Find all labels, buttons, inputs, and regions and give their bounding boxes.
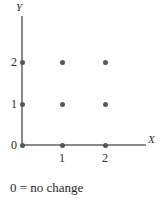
data-point	[60, 60, 65, 65]
data-point	[103, 143, 108, 148]
x-tick-label-1: 1	[55, 152, 69, 164]
origin-tick-label: 0	[5, 139, 17, 151]
data-point	[103, 102, 108, 107]
figure-caption: 0 = no change	[10, 180, 83, 196]
y-tick-label-1: 1	[5, 98, 17, 110]
data-point	[20, 102, 25, 107]
scatter-plot-figure: Y X 0 1 2 1 2	[0, 0, 163, 200]
data-point	[60, 102, 65, 107]
x-tick-label-2: 2	[98, 152, 112, 164]
y-axis-line	[21, 16, 23, 146]
x-axis-line	[22, 144, 146, 146]
y-axis-label: Y	[16, 2, 22, 13]
data-point	[103, 60, 108, 65]
y-tick-label-2: 2	[5, 56, 17, 68]
data-point	[20, 143, 25, 148]
data-point	[20, 60, 25, 65]
data-point	[60, 143, 65, 148]
x-axis-label: X	[148, 134, 155, 145]
